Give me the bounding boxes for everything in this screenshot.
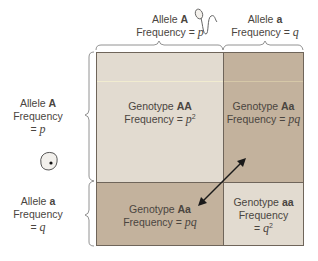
frequency-variable: q <box>40 220 46 234</box>
top-label-allele-a: Allele a Frequency = q <box>224 13 306 39</box>
left-label-allele-a: Allele a Frequency = q <box>6 195 70 234</box>
genotype-label: Genotype <box>128 100 174 112</box>
frequency-exponent: 2 <box>269 222 273 229</box>
equals-sign: = <box>30 123 36 135</box>
frequency-label: Frequency = <box>227 113 286 125</box>
allele-title: Allele <box>248 13 274 25</box>
sperm-icon <box>193 8 221 38</box>
left-braces <box>84 50 96 248</box>
frequency-label: Frequency = <box>231 26 290 38</box>
genotype-symbol: Aa <box>178 203 191 215</box>
frequency-variable: q <box>293 25 299 39</box>
left-label-allele-A: Allele A Frequency = p <box>6 97 70 136</box>
allele-title: Allele <box>21 195 47 207</box>
genotype-label: Genotype <box>233 100 279 112</box>
double-arrow-icon <box>190 152 254 212</box>
frequency-label: Frequency = <box>124 113 183 125</box>
allele-symbol: a <box>49 195 55 207</box>
highlight-line <box>224 81 303 82</box>
equals-sign: = <box>254 222 260 234</box>
genotype-symbol: Aa <box>281 100 294 112</box>
allele-symbol: a <box>276 13 282 25</box>
allele-title: Allele <box>152 13 178 25</box>
egg-icon <box>38 150 60 172</box>
frequency-exponent: 2 <box>192 113 196 120</box>
top-braces <box>94 40 306 52</box>
frequency-variable: pq <box>288 112 300 126</box>
allele-title: Allele <box>20 97 46 109</box>
frequency-label: Frequency = <box>136 26 195 38</box>
equals-sign: = <box>30 221 36 233</box>
frequency-label: Frequency <box>6 208 70 221</box>
allele-symbol: A <box>181 13 189 25</box>
allele-symbol: A <box>49 97 57 109</box>
frequency-variable: p <box>40 122 46 136</box>
genotype-symbol: AA <box>177 100 192 112</box>
frequency-label: Frequency <box>6 110 70 123</box>
highlight-line <box>97 81 223 82</box>
genotype-label: Genotype <box>129 203 175 215</box>
frequency-variable: pq <box>185 215 197 229</box>
punnett-square: Genotype AA Frequency = p2 Genotype Aa F… <box>96 52 304 246</box>
genotype-symbol: aa <box>282 196 294 208</box>
frequency-label: Frequency = <box>123 216 182 228</box>
